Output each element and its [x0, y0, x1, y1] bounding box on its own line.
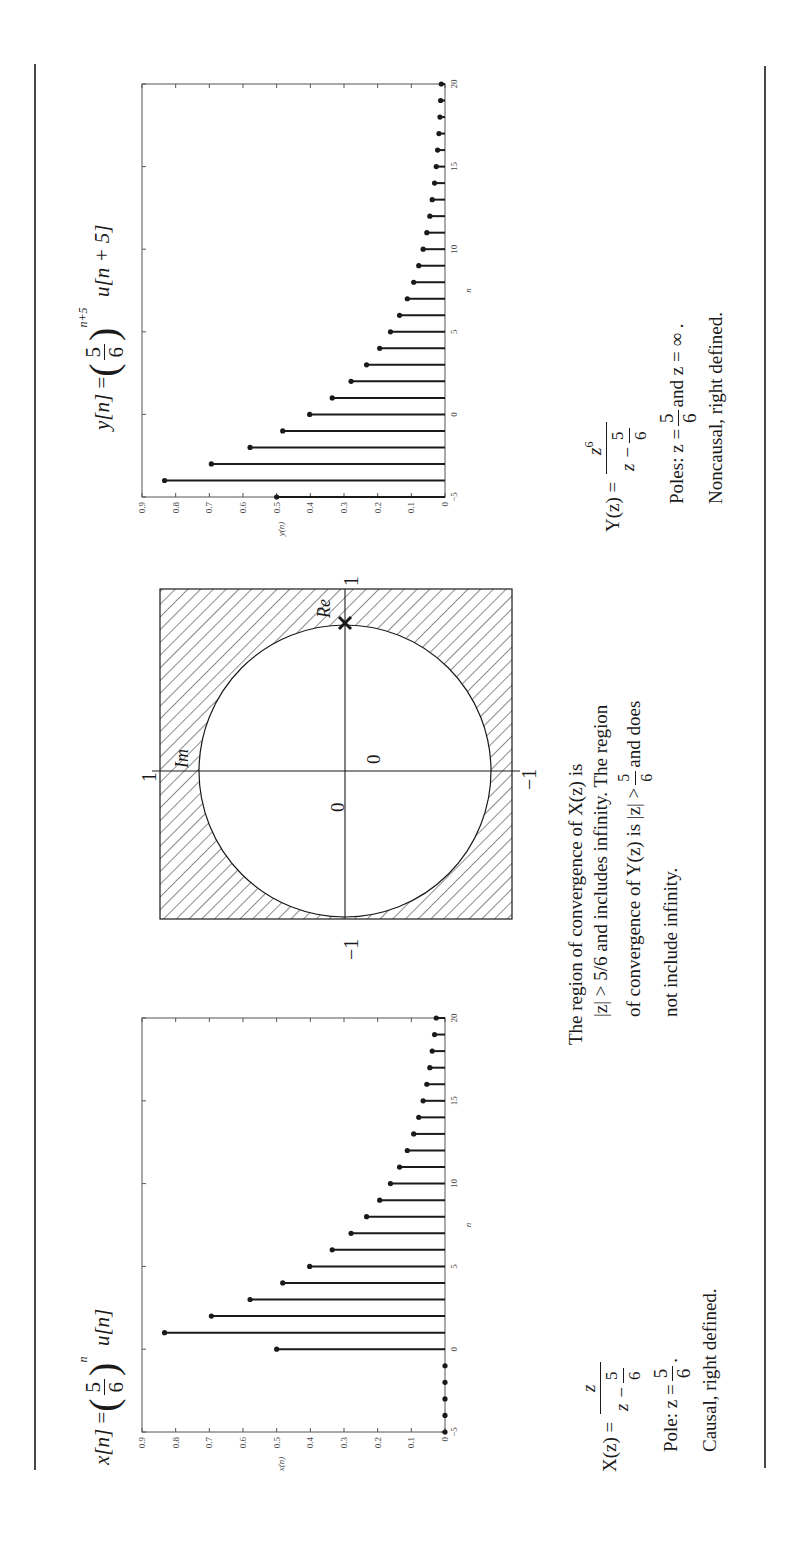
stem-marker: [377, 346, 382, 351]
pz-re-label: Re: [314, 599, 335, 618]
pz-tick-re-neg: −1: [340, 939, 363, 960]
stem-marker: [411, 1131, 416, 1136]
stem-marker: [427, 214, 432, 219]
stem-marker: [421, 247, 426, 252]
n-tick-label: 0: [449, 1346, 459, 1351]
pole-zero-diagram: [152, 589, 520, 919]
stem-marker: [397, 313, 402, 318]
x-pole-line: Pole: z =56.: [650, 1288, 695, 1472]
n-axis-label: n: [463, 288, 473, 293]
fraction-den: 6: [624, 1369, 646, 1384]
x-stem-plot: 00.10.20.30.40.50.60.70.80.9−505101520nx…: [137, 1013, 473, 1472]
stem-marker: [364, 362, 369, 367]
n-tick-label: 10: [449, 244, 459, 254]
fraction-num: 5: [82, 1379, 105, 1396]
stem-marker: [280, 1280, 285, 1285]
n-axis-label: n: [463, 1222, 473, 1227]
value-tick-label: 0.7: [204, 1437, 214, 1449]
x-transform-label: X(z): [599, 1437, 620, 1472]
num-base: z: [584, 448, 605, 455]
stem-marker: [416, 263, 421, 268]
value-tick-label: 0.5: [272, 502, 282, 514]
num-exponent: 6: [582, 442, 596, 448]
fraction-num: 5: [613, 771, 636, 785]
roc-description: The region of convergence of X(z) is |z|…: [563, 701, 683, 1045]
roc-line-3: of convergence of Y(z) is |z| >56and doe…: [613, 701, 658, 1045]
stem-marker: [442, 1413, 447, 1418]
stem-marker: [209, 461, 214, 466]
stem-marker: [421, 1098, 426, 1103]
stem-marker: [432, 1032, 437, 1037]
stem-marker: [397, 1164, 402, 1169]
stem-marker: [434, 164, 439, 169]
pole-prefix: Pole: z =: [660, 1384, 681, 1452]
unit-step: u[n]: [90, 1309, 114, 1346]
paren-close: ): [81, 1363, 126, 1376]
stem-marker: [388, 1181, 393, 1186]
y-stem-plot: 00.10.20.30.40.50.60.70.80.9−505101520ny…: [137, 79, 473, 537]
value-tick-label: 0.2: [373, 1437, 383, 1448]
n-tick-label: −5: [449, 1427, 459, 1437]
stem-marker: [280, 428, 285, 433]
stem-marker: [437, 114, 442, 119]
poles-prefix: Poles: z =: [666, 429, 687, 504]
y-signal-label: y[n]: [90, 394, 114, 430]
stem-marker: [307, 1264, 312, 1269]
stem-marker: [424, 1082, 429, 1087]
fraction-den: z −56: [607, 423, 652, 474]
base-fraction: 56: [82, 344, 127, 361]
stem-marker: [430, 197, 435, 202]
stem-marker: [427, 1065, 432, 1070]
value-tick-label: 0.1: [406, 1437, 416, 1448]
n-tick-label: 15: [449, 162, 459, 172]
x-classification: Causal, right defined.: [697, 1288, 722, 1472]
n-tick-label: −5: [449, 492, 459, 502]
roc-fraction: 56: [613, 771, 658, 785]
pz-tick-im-pos: 1: [138, 772, 161, 782]
stem-marker: [434, 1015, 439, 1020]
stem-marker: [162, 1330, 167, 1335]
value-tick-label: 0.4: [305, 502, 315, 514]
value-tick-label: 0.5: [272, 1437, 282, 1449]
n-tick-label: 5: [449, 329, 459, 334]
exponent: n: [76, 1357, 90, 1363]
stem-marker: [388, 329, 393, 334]
poles-fraction: 56: [656, 410, 701, 426]
stem-marker: [442, 1380, 447, 1385]
equals-sign: =: [90, 377, 114, 389]
poles-suffix: and z = ∞ .: [666, 324, 687, 408]
stem-marker: [307, 412, 312, 417]
fraction-num: 5: [601, 1369, 624, 1384]
n-tick-label: 0: [449, 412, 459, 417]
equals-sign: =: [602, 482, 623, 493]
n-tick-label: 20: [449, 79, 459, 89]
pz-tick-im-neg: −1: [518, 769, 541, 790]
y-transform-label: Y(z): [602, 497, 623, 532]
inner-fraction: 56: [601, 1369, 646, 1384]
value-axis-label: y(n): [276, 522, 286, 538]
fraction-num: z6: [578, 423, 607, 474]
roc-line-3-suffix: and does: [623, 701, 644, 768]
roc-line-1: The region of convergence of X(z) is: [563, 701, 588, 1045]
value-tick-label: 0.7: [204, 502, 214, 514]
stem-marker: [330, 1247, 335, 1252]
pz-tick-re-pos: 1: [340, 576, 363, 586]
stem-marker: [348, 1231, 353, 1236]
stem-marker: [430, 1049, 435, 1054]
roc-hatched-region: [160, 589, 512, 919]
paren-open: (: [81, 363, 126, 376]
pole-fraction: 56: [650, 1366, 695, 1382]
stem-marker: [348, 379, 353, 384]
stem-marker: [442, 1396, 447, 1401]
fraction-num: 5: [82, 344, 105, 361]
n-tick-label: 15: [449, 1096, 459, 1106]
stem-marker: [274, 494, 279, 499]
plot-frame: [142, 84, 445, 497]
stem-marker: [274, 1347, 279, 1352]
stem-marker: [364, 1214, 369, 1219]
den-left: z −: [617, 446, 638, 471]
fraction-den: 6: [673, 1366, 695, 1382]
equals-sign: =: [599, 1422, 620, 1433]
fraction-num: 5: [650, 1366, 673, 1382]
stem-marker: [405, 296, 410, 301]
